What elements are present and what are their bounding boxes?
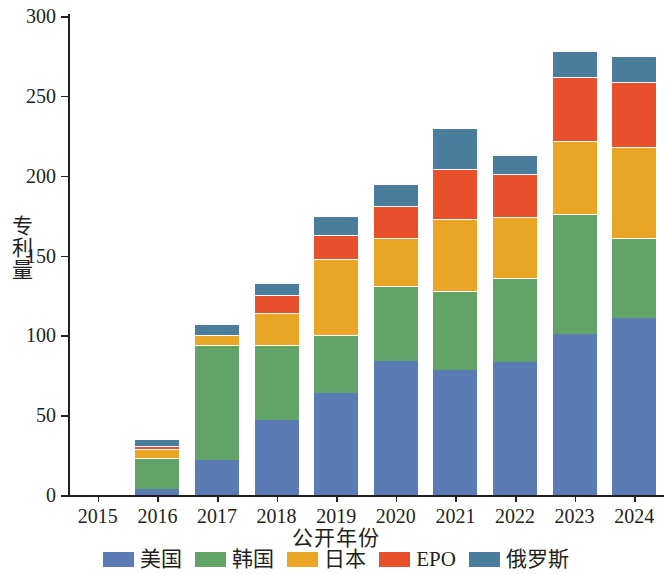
x-axis-tick	[336, 495, 338, 502]
y-axis-title: 专利量	[6, 215, 36, 281]
bar-segment-美国	[553, 334, 597, 495]
bar-segment-美国	[135, 489, 179, 495]
x-axis-tick	[277, 495, 279, 502]
bar-segment-EPO	[374, 206, 418, 238]
bar-segment-俄罗斯	[612, 56, 656, 82]
bar-segment-韩国	[374, 286, 418, 361]
x-axis-tick	[157, 495, 159, 502]
y-axis-tick-label: 200	[26, 166, 56, 186]
legend-label: 美国	[140, 549, 182, 570]
legend-swatch-icon	[379, 552, 410, 567]
bar-segment-美国	[612, 318, 656, 495]
bar-segment-韩国	[195, 345, 239, 460]
bar-segment-日本	[553, 141, 597, 214]
bar-segment-日本	[314, 259, 358, 336]
bar-segment-日本	[493, 217, 537, 278]
bar-segment-美国	[433, 370, 477, 495]
bar-segment-韩国	[314, 335, 358, 392]
legend-swatch-icon	[469, 552, 500, 567]
y-axis-tick	[61, 495, 68, 497]
bar-segment-美国	[374, 361, 418, 495]
legend-label: 韩国	[232, 549, 274, 570]
legend-label: EPO	[416, 549, 456, 570]
bar-2021	[433, 128, 477, 495]
bar-segment-日本	[612, 147, 656, 238]
bar-segment-俄罗斯	[314, 216, 358, 235]
y-axis-tick-label: 300	[26, 6, 56, 26]
legend-label: 俄罗斯	[506, 549, 569, 570]
y-axis-tick	[61, 96, 68, 98]
legend-item-韩国[interactable]: 韩国	[195, 549, 274, 570]
legend: 美国韩国日本EPO俄罗斯	[0, 549, 672, 570]
legend-item-俄罗斯[interactable]: 俄罗斯	[469, 549, 569, 570]
bar-segment-韩国	[612, 238, 656, 318]
bar-segment-美国	[195, 460, 239, 495]
y-axis-tick	[61, 415, 68, 417]
bar-segment-EPO	[493, 174, 537, 217]
y-axis-tick	[61, 335, 68, 337]
bar-segment-俄罗斯	[553, 51, 597, 77]
bar-2024	[612, 56, 656, 495]
legend-label: 日本	[324, 549, 366, 570]
bar-segment-日本	[135, 449, 179, 459]
bar-2017	[195, 324, 239, 495]
bar-segment-韩国	[493, 278, 537, 363]
bar-segment-美国	[255, 420, 299, 495]
bar-2016	[135, 439, 179, 495]
y-axis-tick	[61, 176, 68, 178]
legend-swatch-icon	[287, 552, 318, 567]
y-axis-tick-label: 250	[26, 86, 56, 106]
x-axis-tick	[217, 495, 219, 502]
bar-segment-美国	[314, 393, 358, 495]
bar-segment-EPO	[255, 295, 299, 313]
stacked-bar-chart: 0501001502002503002015201620172018201920…	[0, 0, 672, 574]
bar-2018	[255, 283, 299, 495]
plot-area: 0501001502002503002015201620172018201920…	[68, 16, 664, 495]
bar-segment-俄罗斯	[374, 184, 418, 206]
y-axis-tick	[61, 16, 68, 18]
bar-segment-俄罗斯	[195, 324, 239, 335]
bar-segment-日本	[255, 313, 299, 345]
bar-segment-日本	[433, 219, 477, 291]
legend-swatch-icon	[195, 552, 226, 567]
y-axis-tick-label: 50	[36, 405, 56, 425]
x-axis-tick	[575, 495, 577, 502]
x-axis-tick	[515, 495, 517, 502]
bar-segment-韩国	[135, 458, 179, 488]
legend-item-日本[interactable]: 日本	[287, 549, 366, 570]
bar-segment-韩国	[255, 345, 299, 420]
y-axis-tick-label: 100	[26, 325, 56, 345]
bar-2023	[553, 51, 597, 495]
x-axis-tick	[396, 495, 398, 502]
bar-segment-EPO	[612, 82, 656, 147]
bar-segment-EPO	[553, 77, 597, 141]
x-axis-tick	[634, 495, 636, 502]
y-axis-tick	[61, 256, 68, 258]
bar-segment-俄罗斯	[255, 283, 299, 296]
x-axis-tick	[455, 495, 457, 502]
bar-segment-俄罗斯	[493, 155, 537, 174]
bar-2019	[314, 216, 358, 495]
bar-segment-韩国	[553, 214, 597, 334]
x-axis-tick	[98, 495, 100, 502]
bar-segment-俄罗斯	[433, 128, 477, 170]
legend-item-EPO[interactable]: EPO	[379, 549, 456, 570]
legend-item-美国[interactable]: 美国	[103, 549, 182, 570]
y-axis-tick-label: 0	[46, 485, 56, 505]
bar-segment-日本	[374, 238, 418, 286]
bar-segment-日本	[195, 335, 239, 345]
bar-segment-美国	[493, 362, 537, 495]
bar-segment-EPO	[314, 235, 358, 259]
bar-2022	[493, 155, 537, 495]
bar-segment-EPO	[433, 169, 477, 218]
bar-2020	[374, 184, 418, 495]
legend-swatch-icon	[103, 552, 134, 567]
bar-segment-韩国	[433, 291, 477, 371]
